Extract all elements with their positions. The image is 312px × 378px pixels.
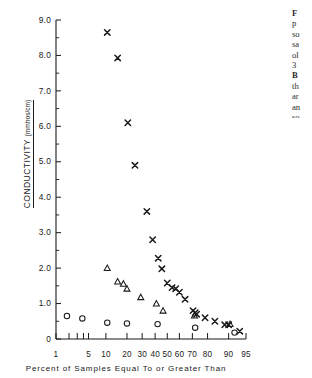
caption-line: so [292, 29, 312, 39]
data-point-triangle [153, 301, 159, 306]
data-point-circle [105, 320, 110, 325]
y-axis-units: (mmhos/cm) [24, 100, 31, 137]
data-point-x [144, 209, 149, 214]
figure-caption: Fpsosaol3Btharanso [292, 8, 312, 118]
x-tick-label: 1 [54, 350, 59, 359]
data-point-circle [124, 321, 129, 326]
caption-line: ar [292, 91, 312, 101]
data-point-circle [64, 313, 69, 318]
data-point-x [150, 237, 155, 242]
x-axis-title: Percent of Samples Equal To or Greater T… [0, 364, 252, 373]
caption-line: sa [292, 39, 312, 49]
data-point-x [156, 255, 161, 260]
data-point-circle [80, 316, 85, 321]
data-point-triangle [120, 281, 126, 286]
figure-root: 01.02.03.04.05.06.07.08.09.0151020304050… [0, 0, 312, 378]
caption-line: F [292, 8, 312, 18]
caption-line: ol [292, 50, 312, 60]
data-point-x [159, 266, 164, 271]
series-circle [64, 313, 237, 335]
x-tick-label: 20 [122, 350, 132, 359]
y-axis-title-text: CONDUCTIVITY [22, 139, 32, 208]
x-tick-label: 90 [224, 350, 234, 359]
y-axis-title: CONDUCTIVITY (mmhos/cm) [22, 84, 34, 224]
x-tick-label: 50 [163, 350, 173, 359]
y-tick-label: 9.0 [39, 15, 51, 25]
x-tick-label: 40 [150, 350, 160, 359]
data-point-x [182, 297, 187, 302]
data-point-x [212, 319, 217, 324]
y-tick-label: 7.0 [39, 86, 51, 96]
y-tick-label: 5.0 [39, 156, 51, 166]
y-tick-label: 2.0 [39, 263, 51, 273]
caption-line: p [292, 18, 312, 28]
y-tick-label: 3.0 [39, 227, 51, 237]
data-point-x [125, 120, 130, 125]
y-tick-label: 6.0 [39, 121, 51, 131]
data-point-circle [155, 321, 160, 326]
data-point-x [115, 55, 120, 60]
x-tick-label: 5 [86, 350, 91, 359]
series-triangle [104, 265, 233, 326]
x-tick-label: 70 [188, 350, 198, 359]
data-point-circle [192, 325, 197, 330]
caption-line: an [292, 102, 312, 112]
data-point-x [132, 163, 137, 168]
y-tick-label: 4.0 [39, 192, 51, 202]
x-tick-label: 80 [203, 350, 213, 359]
plot-svg: 01.02.03.04.05.06.07.08.09.0151020304050… [0, 0, 252, 378]
y-tick-label: 8.0 [39, 50, 51, 60]
caption-line: B [292, 70, 312, 80]
x-tick-label: 10 [101, 350, 111, 359]
data-point-x [105, 30, 110, 35]
scatter-plot: 01.02.03.04.05.06.07.08.09.0151020304050… [0, 0, 252, 378]
data-point-triangle [138, 294, 144, 299]
data-point-x [202, 315, 207, 320]
x-tick-label: 30 [137, 350, 147, 359]
y-tick-label: 1.0 [39, 298, 51, 308]
x-tick-label: 60 [175, 350, 185, 359]
y-tick-label: 0 [46, 334, 51, 344]
data-point-circle [232, 330, 237, 335]
data-point-x [237, 329, 242, 334]
data-point-triangle [115, 279, 121, 284]
caption-line: th [292, 81, 312, 91]
data-point-triangle [104, 265, 110, 270]
x-tick-label: 95 [241, 350, 251, 359]
caption-line: 3 [292, 60, 312, 70]
caption-line: so [292, 112, 312, 118]
data-point-x [177, 290, 182, 295]
data-point-triangle [160, 308, 166, 313]
